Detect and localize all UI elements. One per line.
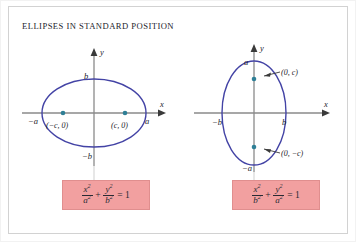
x-axis-label: x xyxy=(323,99,328,109)
numerator-exponent: 2 xyxy=(109,183,112,189)
focus-point-top xyxy=(252,77,257,82)
focus-top-label: (0, c) xyxy=(281,68,298,77)
equals-one: = 1 xyxy=(286,190,300,200)
covertex-right-label: b xyxy=(282,117,286,127)
vertex-right-label: a xyxy=(145,116,149,126)
plus-operator: + xyxy=(264,190,271,200)
y-axis-label: y xyxy=(99,47,104,57)
vertex-top-label: a xyxy=(244,57,248,67)
fraction-denominator: b2 xyxy=(103,196,115,206)
formula-box-horizontal: x2 a2 + y2 b2 = 1 xyxy=(62,180,150,210)
focus-point-left xyxy=(61,111,66,116)
vertical-ellipse-panel: x y a −a −b b (0, c) (0, −c) xyxy=(180,36,348,176)
covertex-left-label: −b xyxy=(212,117,222,127)
formula-box-vertical: x2 b2 + y2 a2 = 1 xyxy=(232,180,320,210)
denominator-exponent: 2 xyxy=(110,194,113,200)
y-axis-arrowhead xyxy=(251,44,258,52)
fraction-denominator: a2 xyxy=(273,196,285,206)
horizontal-ellipse-panel: x y −a a b −b (−c, 0) (c, 0) xyxy=(8,36,176,176)
vertical-ellipse-diagram: x y a −a −b b (0, c) (0, −c) xyxy=(180,36,348,176)
vertex-bottom-label: −a xyxy=(242,163,252,173)
covertex-top-label: b xyxy=(84,71,88,81)
y-axis-arrowhead xyxy=(91,48,98,56)
plus-operator: + xyxy=(94,190,101,200)
figure-root: ELLIPSES IN STANDARD POSITION x y −a a b… xyxy=(0,0,356,242)
focus-point-bottom xyxy=(252,145,257,150)
focus-point-right xyxy=(123,111,128,116)
ellipse-equation-vertical: x2 b2 + y2 a2 = 1 xyxy=(251,185,300,205)
fraction-denominator: b2 xyxy=(251,196,263,206)
y-axis-label: y xyxy=(259,43,264,53)
denominator-exponent: 2 xyxy=(258,194,261,200)
x-axis-arrowhead xyxy=(158,110,166,117)
numerator-exponent: 2 xyxy=(258,183,261,189)
focus-left-label: (−c, 0) xyxy=(46,121,69,130)
denominator-exponent: 2 xyxy=(280,194,283,200)
numerator-exponent: 2 xyxy=(88,183,91,189)
x-axis-label: x xyxy=(159,99,164,109)
equals-one: = 1 xyxy=(116,190,130,200)
fraction-denominator: a2 xyxy=(81,196,93,206)
horizontal-ellipse-diagram: x y −a a b −b (−c, 0) (c, 0) xyxy=(8,36,176,176)
focus-right-label: (c, 0) xyxy=(111,121,128,130)
focus-bottom-label: (0, −c) xyxy=(281,149,304,158)
denominator-exponent: 2 xyxy=(88,194,91,200)
numerator-exponent: 2 xyxy=(279,183,282,189)
covertex-bottom-label: −b xyxy=(82,151,92,161)
figure-title: ELLIPSES IN STANDARD POSITION xyxy=(22,21,174,31)
focus-bottom-leader-arrowhead xyxy=(264,149,271,153)
vertex-left-label: −a xyxy=(28,116,38,126)
fraction-x-over-a: x2 a2 xyxy=(81,185,93,205)
x-axis-arrowhead xyxy=(322,110,330,117)
fraction-y-over-b: y2 b2 xyxy=(103,185,115,205)
fraction-x-over-b: x2 b2 xyxy=(251,185,263,205)
ellipse-equation-horizontal: x2 a2 + y2 b2 = 1 xyxy=(81,185,130,205)
fraction-y-over-a: y2 a2 xyxy=(273,185,285,205)
